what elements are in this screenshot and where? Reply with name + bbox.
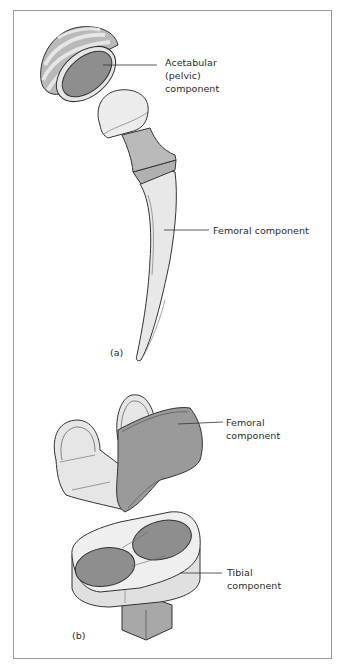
label-line: Tibial	[227, 566, 281, 579]
label-acetabular-component: Acetabular (pelvic) component	[165, 56, 219, 95]
hip-femoral-stem	[98, 90, 176, 361]
label-line: Femoral component	[213, 224, 309, 237]
panel-label-b: (b)	[72, 630, 85, 641]
label-hip-femoral-component: Femoral component	[213, 224, 309, 237]
panel-label-a: (a)	[110, 347, 123, 358]
label-tibial-component: Tibial component	[227, 566, 281, 592]
label-line: Femoral	[226, 416, 280, 429]
label-line: component	[227, 579, 281, 592]
knee-femoral-component	[54, 395, 202, 512]
prosthesis-illustration	[0, 0, 347, 668]
label-line: component	[165, 82, 219, 95]
label-line: component	[226, 429, 280, 442]
label-line: Acetabular	[165, 56, 219, 69]
label-line: (pelvic)	[165, 69, 219, 82]
tibial-component	[72, 512, 200, 640]
label-knee-femoral-component: Femoral component	[226, 416, 280, 442]
